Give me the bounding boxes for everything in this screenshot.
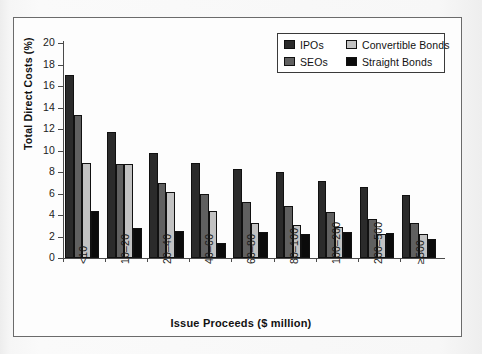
bar xyxy=(360,187,369,258)
bar-group xyxy=(233,43,267,258)
bar xyxy=(233,169,242,258)
bar xyxy=(107,132,116,258)
x-axis-tick-mark xyxy=(63,258,64,262)
legend-label-convertible-bonds: Convertible Bonds xyxy=(362,39,450,51)
legend-item-convertible-bonds: Convertible Bonds xyxy=(346,39,452,51)
x-axis-tick-label: 20–40 xyxy=(161,234,173,264)
bar-group xyxy=(191,43,225,258)
y-axis-tick-label: 8 xyxy=(49,165,55,177)
legend-label-straight-bonds: Straight Bonds xyxy=(362,56,432,68)
x-axis-tick-label: 60–80 xyxy=(245,234,257,264)
y-axis-tick-label: 18 xyxy=(43,58,55,70)
y-axis-tick-mark xyxy=(58,194,63,195)
bar xyxy=(74,115,83,258)
bar xyxy=(276,172,285,258)
bar-group xyxy=(149,43,183,258)
y-axis-tick-mark xyxy=(58,129,63,130)
bar xyxy=(386,233,395,258)
bar xyxy=(65,75,74,258)
bar xyxy=(191,163,200,258)
legend-swatch-straight-bonds xyxy=(346,57,357,66)
legend-swatch-seos xyxy=(284,57,295,66)
x-axis-tick-label: ≥500 xyxy=(414,240,426,264)
plot-area: 02468101214161820 xyxy=(63,43,442,258)
bar xyxy=(217,243,226,258)
y-axis-tick-label: 2 xyxy=(49,230,55,242)
y-axis-title: Total Direct Costs (%) xyxy=(22,37,34,150)
y-axis-tick-mark xyxy=(58,108,63,109)
bar xyxy=(149,153,158,258)
y-axis-tick-mark xyxy=(58,237,63,238)
y-axis-tick-mark xyxy=(58,215,63,216)
legend-item-straight-bonds: Straight Bonds xyxy=(346,56,452,68)
legend-swatch-ipos xyxy=(284,40,295,49)
x-axis-tick-label: 10–20 xyxy=(119,234,131,264)
y-axis-tick-label: 0 xyxy=(49,251,55,263)
y-axis-tick-label: 20 xyxy=(43,36,55,48)
bar xyxy=(301,234,310,258)
bar xyxy=(259,232,268,258)
x-axis-tick-mark xyxy=(147,258,148,262)
y-axis-tick-mark xyxy=(58,65,63,66)
legend-swatch-convertible-bonds xyxy=(346,40,357,49)
y-axis-tick-label: 14 xyxy=(43,101,55,113)
bar xyxy=(343,232,352,258)
y-axis-tick-mark xyxy=(58,151,63,152)
x-axis-tick-mark xyxy=(316,258,317,262)
x-axis-tick-mark xyxy=(274,258,275,262)
y-axis-tick-label: 4 xyxy=(49,208,55,220)
bar xyxy=(402,195,411,258)
legend-item-seos: SEOs xyxy=(284,56,346,68)
bar xyxy=(175,231,184,258)
bar-group xyxy=(276,43,310,258)
x-axis-title: Issue Proceeds ($ million) xyxy=(0,317,482,329)
legend-label-ipos: IPOs xyxy=(300,39,324,51)
y-axis-tick-mark xyxy=(58,86,63,87)
y-axis-tick-mark xyxy=(58,172,63,173)
y-axis-tick-mark xyxy=(58,43,63,44)
bar xyxy=(82,163,91,258)
bar-group xyxy=(402,43,436,258)
y-axis-tick-label: 16 xyxy=(43,79,55,91)
legend-item-ipos: IPOs xyxy=(284,39,346,51)
chart-legend: IPOs Convertible Bonds SEOs Straight Bon… xyxy=(277,33,445,73)
bar xyxy=(91,211,100,258)
legend-label-seos: SEOs xyxy=(300,56,328,68)
bar xyxy=(133,228,142,258)
x-axis-tick-label: 80–100 xyxy=(288,228,300,264)
x-axis-tick-mark xyxy=(400,258,401,262)
x-axis-tick-label: 40–60 xyxy=(203,234,215,264)
x-axis-tick-mark xyxy=(231,258,232,262)
x-axis-tick-mark xyxy=(358,258,359,262)
x-axis-tick-label: <10 xyxy=(77,246,89,264)
y-axis-tick-label: 10 xyxy=(43,144,55,156)
bar-group xyxy=(65,43,99,258)
bar xyxy=(428,239,437,258)
x-axis-tick-label: 100–200 xyxy=(330,222,342,264)
x-axis-tick-label: 200–500 xyxy=(372,222,384,264)
y-axis-tick-label: 12 xyxy=(43,122,55,134)
x-axis-tick-mark xyxy=(189,258,190,262)
bar-group xyxy=(107,43,141,258)
x-axis-tick-mark xyxy=(105,258,106,262)
y-axis-tick-label: 6 xyxy=(49,187,55,199)
bar xyxy=(318,181,327,258)
